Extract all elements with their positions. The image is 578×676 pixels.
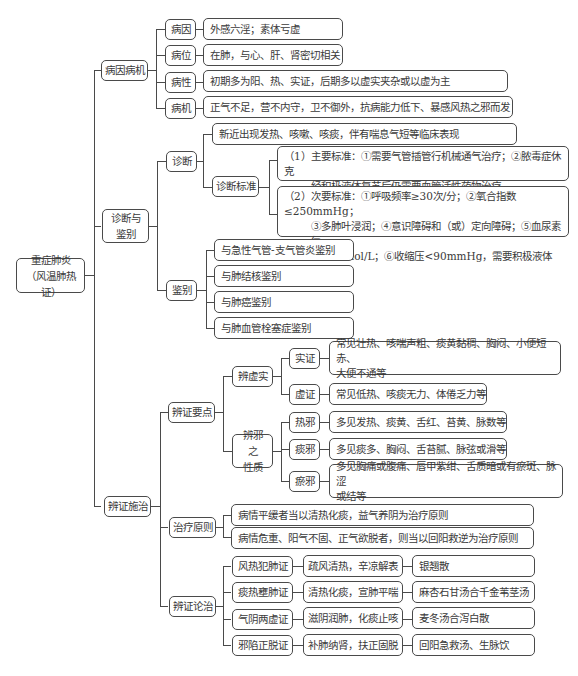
leaf-nature: 初期多为阳、热、实证，后期多以虚实夹杂或以虚为主 bbox=[203, 70, 508, 92]
leaf-principle-mild: 病情平缓者当以清热化痰，益气养阴为治疗原则 bbox=[231, 504, 534, 526]
node-nature: 病性 bbox=[165, 72, 196, 93]
node-stasis-pathogen: 瘀邪 bbox=[289, 471, 320, 492]
leaf-differential-tuberculosis: 与肺结核鉴别 bbox=[214, 265, 354, 287]
node-diagnosis-differential-line1: 诊断与 bbox=[111, 210, 141, 226]
leaf-phlegm-pathogen: 多见痰多、胸闷、舌苔腻、脉弦或滑等 bbox=[329, 438, 507, 460]
node-etiology-pathogenesis: 病因病机 bbox=[101, 60, 148, 81]
leaf-principle-severe: 病情危重、阳气不固、正气欲脱者，则当以回阳救逆为治疗原则 bbox=[231, 527, 534, 549]
node-pathogen-nature: 辨邪之 性质 bbox=[232, 434, 273, 468]
node-syndrome-collapse: 邪陷正脱证 bbox=[232, 635, 293, 656]
leaf-excess: 常见壮热、咳喘声粗、痰黄黏稠、胸闷、小便短赤、 大便不通等 bbox=[329, 341, 561, 375]
node-differential: 鉴别 bbox=[166, 280, 197, 301]
major-criteria-line1: （1）主要标准：①需要气管插管行机械通气治疗；②脓毒症休克 bbox=[284, 150, 561, 177]
node-deficiency: 虚证 bbox=[289, 384, 320, 405]
leaf-method-wind-heat: 疏风清热，辛凉解表 bbox=[303, 555, 403, 577]
node-syndrome-qi-yin: 气阴两虚证 bbox=[232, 609, 293, 630]
leaf-differential-bronchitis: 与急性气管-支气管炎鉴别 bbox=[214, 239, 354, 261]
leaf-stasis-pathogen: 多见胸痛或腹痛、唇甲紫绀、舌质暗或有瘀斑、脉涩 或结等 bbox=[329, 464, 563, 498]
node-key-points: 辨证要点 bbox=[168, 402, 215, 423]
node-diagnosis-differential-line2: 鉴别 bbox=[111, 226, 141, 242]
node-excess: 实证 bbox=[289, 348, 320, 369]
leaf-cause: 外感六淫；素体亏虚 bbox=[203, 18, 343, 40]
leaf-formula-phlegm-heat: 麻杏石甘汤合千金苇茎汤 bbox=[412, 581, 535, 603]
leaf-minor-criteria: （2）次要标准：①呼吸频率≥30次/分；②氧合指数≤250mmHg； ③多肺叶浸… bbox=[277, 186, 569, 237]
leaf-differential-embolism: 与肺血管栓塞症鉴别 bbox=[214, 317, 354, 339]
leaf-major-criteria: （1）主要标准：①需要气管插管行机械通气治疗；②脓毒症休克 经积极液体复苏后仍需… bbox=[277, 146, 569, 181]
node-syndrome-phlegm-heat: 痰热壅肺证 bbox=[232, 582, 293, 603]
leaf-formula-wind-heat: 银翘散 bbox=[412, 555, 535, 577]
node-phlegm-pathogen: 痰邪 bbox=[289, 439, 320, 460]
leaf-differential-cancer: 与肺癌鉴别 bbox=[214, 291, 354, 313]
node-syndrome-wind-heat: 风热犯肺证 bbox=[232, 556, 293, 577]
node-pathogen-nature-line1: 辨邪之 bbox=[239, 427, 266, 459]
leaf-stasis-line2: 或结等 bbox=[336, 489, 556, 504]
node-syndrome-treatment: 辨证施治 bbox=[104, 496, 151, 517]
root-subtitle: （风温肺热证） bbox=[23, 268, 78, 300]
leaf-method-qi-yin: 滋阴润肺，化痰止咳 bbox=[303, 607, 403, 629]
leaf-mechanism: 正气不足，营不内守，卫不御外，抗病能力低下、暴感风热之邪而发 bbox=[203, 96, 513, 118]
leaf-method-phlegm-heat: 清热化痰，宣肺平喘 bbox=[303, 581, 403, 603]
node-cause: 病因 bbox=[165, 19, 196, 40]
leaf-presentation: 新近出现发热、咳嗽、咳痰，伴有喘息气短等临床表现 bbox=[212, 123, 517, 145]
node-criteria: 诊断标准 bbox=[212, 176, 259, 197]
leaf-method-collapse: 补肺纳肾，扶正固脱 bbox=[303, 634, 403, 656]
leaf-formula-collapse: 回阳急救汤、生脉饮 bbox=[412, 634, 535, 656]
leaf-formula-qi-yin: 麦冬汤合泻白散 bbox=[412, 607, 535, 629]
root-title: 重症肺炎 bbox=[23, 252, 78, 268]
node-pathogen-nature-line2: 性质 bbox=[239, 459, 266, 475]
node-mechanism: 病机 bbox=[165, 98, 196, 119]
node-diagnosis: 诊断 bbox=[166, 151, 197, 172]
node-syndrome-differentiation: 辨证论治 bbox=[169, 596, 216, 617]
node-heat-pathogen: 热邪 bbox=[289, 412, 320, 433]
leaf-heat-pathogen: 多见发热、痰黄、舌红、苔黄、脉数等 bbox=[329, 411, 507, 433]
node-location: 病位 bbox=[165, 45, 196, 66]
node-diagnosis-differential: 诊断与 鉴别 bbox=[102, 209, 149, 243]
root-node: 重症肺炎 （风温肺热证） bbox=[16, 258, 85, 293]
leaf-excess-line1: 常见壮热、咳喘声粗、痰黄黏稠、胸闷、小便短赤、 bbox=[336, 336, 554, 366]
leaf-location: 在肺，与心、肝、肾密切相关 bbox=[203, 44, 343, 66]
leaf-stasis-line1: 多见胸痛或腹痛、唇甲紫绀、舌质暗或有瘀斑、脉涩 bbox=[336, 459, 556, 489]
node-treatment-principles: 治疗原则 bbox=[169, 517, 216, 538]
leaf-excess-line2: 大便不通等 bbox=[336, 366, 554, 381]
minor-criteria-line1: （2）次要标准：①呼吸频率≥30次/分；②氧合指数≤250mmHg； bbox=[284, 190, 516, 217]
node-deficiency-excess: 辨虚实 bbox=[232, 366, 273, 387]
leaf-deficiency: 常见低热、咳痰无力、体倦乏力等 bbox=[329, 383, 487, 405]
